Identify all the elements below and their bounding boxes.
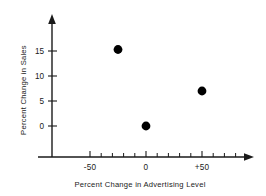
y-ticklabel-15: 15 <box>35 47 45 56</box>
y-axis-arrowhead <box>48 14 56 24</box>
y-ticklabel-0: 0 <box>39 122 44 131</box>
x-ticklabel-minus50: -50 <box>84 163 97 172</box>
x-axis-title: Percent Change in Advertising Level <box>74 180 205 189</box>
y-ticklabel-5: 5 <box>39 97 44 106</box>
y-axis-title: Percent Change in Sales <box>19 45 28 135</box>
x-ticklabel-zero: 0 <box>144 163 149 172</box>
x-axis-arrowhead <box>244 153 254 161</box>
y-ticklabel-10: 10 <box>35 72 45 81</box>
chart-canvas: 0 5 10 15 -50 0 +50 <box>0 0 266 196</box>
data-point <box>114 45 123 54</box>
data-point <box>142 122 151 131</box>
x-ticklabel-plus50: +50 <box>195 163 210 172</box>
y-axis <box>48 14 56 157</box>
scatter-chart: 0 5 10 15 -50 0 +50 <box>0 0 266 196</box>
data-series <box>114 45 207 130</box>
data-point <box>198 87 207 96</box>
x-axis-ticks <box>90 151 236 157</box>
